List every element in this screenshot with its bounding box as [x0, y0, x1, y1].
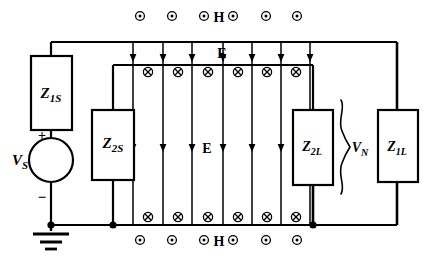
node-ground [47, 221, 54, 228]
circle-dot-center [296, 15, 299, 18]
e-field-arrowhead [307, 54, 314, 62]
circle-dot-center [232, 15, 235, 18]
circle-dot-center [203, 239, 206, 242]
circle-x-icon [203, 212, 212, 221]
circle-dot-icon [293, 236, 302, 245]
e-field-arrowhead [278, 144, 285, 152]
circle-dot-center [171, 15, 174, 18]
circle-x-icon [262, 212, 271, 221]
node-z2l-bottom [309, 221, 316, 228]
circle-x-icon [173, 67, 182, 76]
circuit-diagram: Z1S Z2S Z2L Z1L VS VN + − H H E E [0, 0, 426, 266]
e-field-arrowhead [189, 54, 196, 62]
circle-dot-icon [262, 236, 271, 245]
source-minus-sign: − [38, 189, 47, 205]
circle-dot-center [265, 239, 268, 242]
e-label-middle: E [202, 141, 211, 156]
circle-dot-icon [229, 236, 238, 245]
circle-dot-icon [229, 12, 238, 21]
node-z2s-bottom [109, 221, 116, 228]
ground-symbol [33, 225, 69, 249]
impedance-boxes-group [31, 56, 418, 185]
e-field-arrowhead [249, 144, 256, 152]
circle-dot-icon [262, 12, 271, 21]
vn-label: VN [352, 140, 369, 158]
e-label-top: E [217, 46, 226, 61]
e-field-arrowhead [220, 144, 227, 152]
e-field-lines-group [133, 42, 310, 225]
circle-dot-icon [168, 236, 177, 245]
circle-x-icon [291, 212, 300, 221]
circle-x-icon [143, 212, 152, 221]
h-label-top: H [214, 10, 225, 25]
circle-dot-icon [168, 12, 177, 21]
circle-dot-icon [136, 236, 145, 245]
circle-dot-center [171, 239, 174, 242]
vs-label: VS [12, 152, 28, 171]
vn-brace [340, 100, 350, 194]
circle-x-icon [291, 67, 300, 76]
e-field-arrowhead [130, 54, 137, 62]
circle-dot-center [296, 239, 299, 242]
circle-x-icon [233, 212, 242, 221]
circle-dot-center [265, 15, 268, 18]
e-field-arrowhead [278, 54, 285, 62]
e-field-arrowhead [160, 54, 167, 62]
circle-dot-icon [293, 12, 302, 21]
circle-x-icon [262, 67, 271, 76]
e-field-arrowhead [160, 144, 167, 152]
circle-dot-icon [136, 12, 145, 21]
circle-x-icon [173, 212, 182, 221]
e-field-arrowhead [189, 144, 196, 152]
e-field-arrowheads-group [130, 54, 314, 152]
h-label-bottom: H [214, 234, 225, 249]
source-plus-sign: + [38, 128, 46, 143]
voltage-source-circle[interactable] [29, 138, 73, 182]
circle-dot-center [232, 239, 235, 242]
circle-x-icon [203, 67, 212, 76]
e-field-arrowhead [249, 54, 256, 62]
circle-dot-center [139, 15, 142, 18]
circle-x-icon [233, 67, 242, 76]
circle-dot-icon [200, 12, 209, 21]
circle-dot-center [203, 15, 206, 18]
circle-dot-icon [200, 236, 209, 245]
circle-dot-center [139, 239, 142, 242]
circle-x-icon [143, 67, 152, 76]
circuit-schematic-canvas: Z1S Z2S Z2L Z1L VS VN + − H H E E [0, 0, 426, 266]
